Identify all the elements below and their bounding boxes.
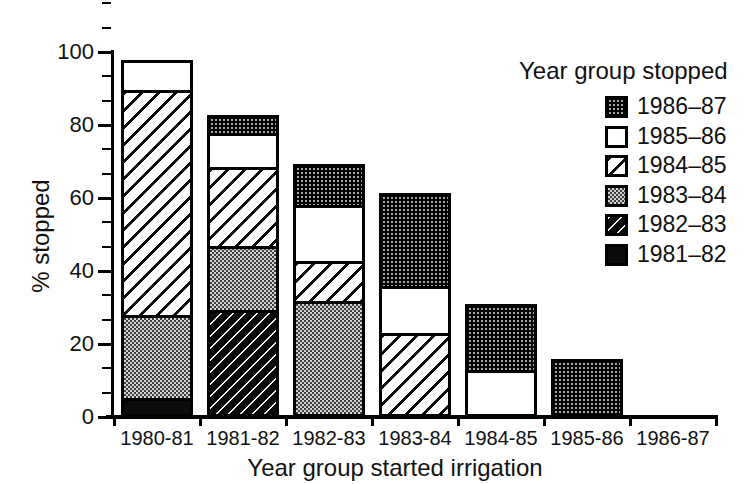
y-tick-minor — [102, 75, 111, 77]
bar-stack — [124, 63, 190, 414]
bar-segment — [296, 302, 362, 414]
y-axis-line — [111, 50, 114, 419]
y-tick-minor — [102, 246, 111, 248]
bar-segment — [124, 63, 190, 92]
bar — [551, 359, 623, 417]
y-tick-label: 0 — [50, 406, 94, 428]
stacked-bar-chart-figure: 020406080100 1980-811981-821982-831983-8… — [0, 0, 749, 484]
x-tick — [715, 417, 718, 426]
segment-divider — [210, 133, 276, 136]
bar-stack — [210, 118, 276, 414]
segment-divider — [296, 205, 362, 208]
x-axis-title: Year group started irrigation — [80, 454, 710, 482]
x-tick-label: 1984-85 — [458, 428, 544, 448]
legend-label: 1982–83 — [637, 213, 727, 236]
bar — [293, 164, 365, 417]
bar-segment — [382, 335, 448, 414]
bar-segment — [296, 167, 362, 207]
y-tick-major — [98, 51, 111, 54]
y-tick-label: 60 — [50, 187, 94, 209]
bar — [121, 60, 193, 417]
bar-stack — [554, 362, 620, 414]
legend-swatch — [605, 185, 628, 207]
x-tick-label: 1986-87 — [630, 428, 716, 448]
legend-swatch — [605, 214, 628, 236]
y-tick-minor — [102, 294, 111, 296]
y-tick-major — [98, 270, 111, 273]
segment-divider — [124, 398, 190, 401]
bar-stack — [468, 307, 534, 414]
segment-divider — [124, 90, 190, 93]
bar-segment — [382, 288, 448, 335]
bar-segment — [210, 311, 276, 414]
bar — [379, 193, 451, 417]
bar-segment — [468, 371, 534, 414]
bar-stack — [382, 196, 448, 414]
bar — [207, 115, 279, 417]
x-tick — [113, 417, 116, 426]
x-tick — [371, 417, 374, 426]
segment-divider — [382, 286, 448, 289]
y-tick-label: 80 — [50, 114, 94, 136]
bar-segment — [554, 362, 620, 414]
x-tick-label: 1980-81 — [114, 428, 200, 448]
x-tick — [285, 417, 288, 426]
bar — [465, 304, 537, 417]
y-tick-major — [98, 124, 111, 127]
bar-segment — [210, 134, 276, 168]
legend-label: 1984–85 — [637, 154, 727, 177]
legend-label: 1985–86 — [637, 125, 727, 148]
segment-divider — [210, 310, 276, 313]
segment-divider — [296, 301, 362, 304]
y-tick-label: 100 — [50, 41, 94, 63]
y-tick-major — [98, 197, 111, 200]
segment-divider — [468, 370, 534, 373]
y-tick-minor — [102, 173, 111, 175]
y-tick-label: 40 — [50, 260, 94, 282]
legend-swatch — [605, 96, 628, 118]
legend-swatch — [605, 126, 628, 148]
bar-stack — [296, 167, 362, 414]
bar-segment — [124, 316, 190, 399]
legend-label: 1986–87 — [637, 95, 727, 118]
y-tick-minor — [102, 100, 111, 102]
y-tick-minor — [102, 392, 111, 394]
segment-divider — [210, 246, 276, 249]
y-tick-minor — [102, 2, 111, 4]
x-tick — [543, 417, 546, 426]
legend-swatch — [605, 244, 628, 266]
legend-label: 1981–82 — [637, 243, 727, 266]
bar-segment — [382, 196, 448, 288]
bar-segment — [296, 207, 362, 263]
x-tick-label: 1982-83 — [286, 428, 372, 448]
legend-title: Year group stopped — [519, 57, 728, 85]
y-tick-minor — [102, 319, 111, 321]
y-tick-minor — [102, 221, 111, 223]
y-tick-major — [98, 416, 111, 419]
y-tick-label: 20 — [50, 333, 94, 355]
x-tick-label: 1983-84 — [372, 428, 458, 448]
x-tick-label: 1985-86 — [544, 428, 630, 448]
segment-divider — [296, 261, 362, 264]
y-tick-major — [98, 343, 111, 346]
segment-divider — [382, 333, 448, 336]
bar-segment — [296, 263, 362, 303]
y-tick-minor — [102, 27, 111, 29]
y-axis-title: % stopped — [27, 151, 53, 321]
y-tick-minor — [102, 148, 111, 150]
x-tick — [629, 417, 632, 426]
bar-segment — [210, 169, 276, 248]
legend-swatch — [605, 155, 628, 177]
segment-divider — [210, 167, 276, 170]
bar-segment — [124, 400, 190, 414]
x-tick-label: 1981-82 — [200, 428, 286, 448]
y-tick-minor — [102, 367, 111, 369]
x-tick — [199, 417, 202, 426]
segment-divider — [124, 315, 190, 318]
bar-segment — [210, 248, 276, 311]
legend-label: 1983–84 — [637, 184, 727, 207]
bar-segment — [468, 307, 534, 371]
x-tick — [457, 417, 460, 426]
bar-segment — [124, 92, 190, 316]
